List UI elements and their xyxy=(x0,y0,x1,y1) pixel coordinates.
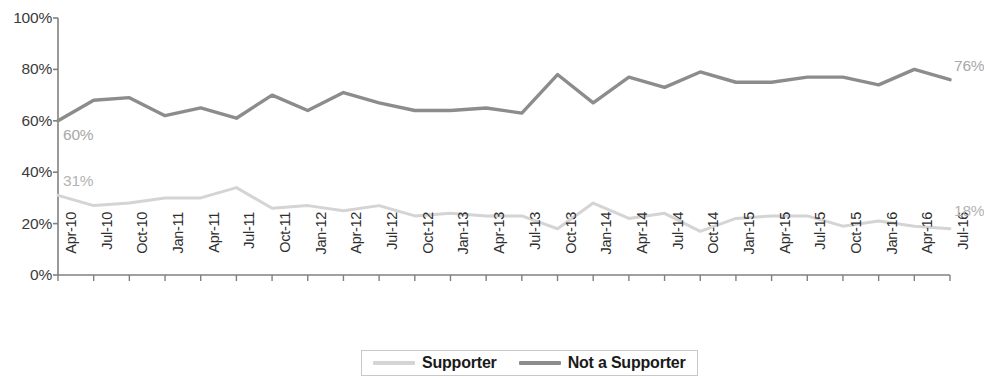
x-axis-tick-label: Jan-16 xyxy=(885,212,900,282)
x-axis-tick-label: Oct-12 xyxy=(421,212,436,282)
label-not-a-supporter-end: 76% xyxy=(954,58,984,74)
x-axis-tick-label: Oct-10 xyxy=(135,212,150,282)
x-axis-tick-label: Apr-12 xyxy=(349,212,364,282)
x-axis-tick-label: Jul-15 xyxy=(813,212,828,282)
x-axis-tick-labels: Apr-10Jul-10Oct-10Jan-11Apr-11Jul-11Oct-… xyxy=(0,276,984,346)
x-axis-tick-label: Oct-11 xyxy=(278,212,293,282)
x-axis-tick-label: Oct-13 xyxy=(564,212,579,282)
y-axis-tick-label: 20% xyxy=(4,216,52,232)
x-axis-tick-label: Oct-14 xyxy=(706,212,721,282)
x-axis-tick-label: Jul-12 xyxy=(385,212,400,282)
label-supporter-start: 31% xyxy=(63,173,93,189)
x-axis-tick-label: Jan-14 xyxy=(599,212,614,282)
x-axis-tick-label: Jul-14 xyxy=(671,212,686,282)
legend-item-not-a-supporter[interactable]: Not a Supporter xyxy=(519,355,686,371)
line-chart: 0%20%40%60%80%100% Apr-10Jul-10Oct-10Jan… xyxy=(0,0,984,379)
label-supporter-end: 18% xyxy=(954,203,984,219)
y-axis-tick-labels: 0%20%40%60%80%100% xyxy=(0,0,52,290)
series-line-not-a-supporter xyxy=(58,69,950,120)
label-not-a-supporter-start: 60% xyxy=(63,127,93,143)
x-axis-tick-label: Jan-13 xyxy=(456,212,471,282)
y-axis-tick-label: 80% xyxy=(4,61,52,77)
legend-line-swatch-icon xyxy=(519,361,561,365)
x-axis-tick-label: Apr-13 xyxy=(492,212,507,282)
legend-item-label: Not a Supporter xyxy=(568,355,686,371)
y-axis-tick-label: 40% xyxy=(4,164,52,180)
x-axis-tick-label: Apr-16 xyxy=(920,212,935,282)
data-series-group xyxy=(58,69,950,231)
x-axis-tick-label: Jan-15 xyxy=(742,212,757,282)
x-axis-tick-label: Jul-13 xyxy=(528,212,543,282)
legend-item-supporter[interactable]: Supporter xyxy=(373,355,497,371)
x-axis-tick-label: Apr-14 xyxy=(635,212,650,282)
x-axis-tick-label: Apr-15 xyxy=(778,212,793,282)
x-axis-tick-label: Jul-16 xyxy=(956,212,971,282)
x-axis-tick-label: Jul-10 xyxy=(100,212,115,282)
x-axis-tick-label: Jul-11 xyxy=(242,212,257,282)
chart-legend: SupporterNot a Supporter xyxy=(361,350,698,376)
x-axis-tick-label: Jan-11 xyxy=(171,212,186,282)
legend-line-swatch-icon xyxy=(373,361,415,365)
x-axis-tick-label: Apr-11 xyxy=(207,212,222,282)
y-axis-tick-label: 60% xyxy=(4,113,52,129)
y-axis-tick-label: 100% xyxy=(4,10,52,26)
x-axis-tick-label: Jan-12 xyxy=(314,212,329,282)
x-axis-tick-label: Oct-15 xyxy=(849,212,864,282)
x-axis-tick-label: Apr-10 xyxy=(64,212,79,282)
legend-item-label: Supporter xyxy=(422,355,497,371)
